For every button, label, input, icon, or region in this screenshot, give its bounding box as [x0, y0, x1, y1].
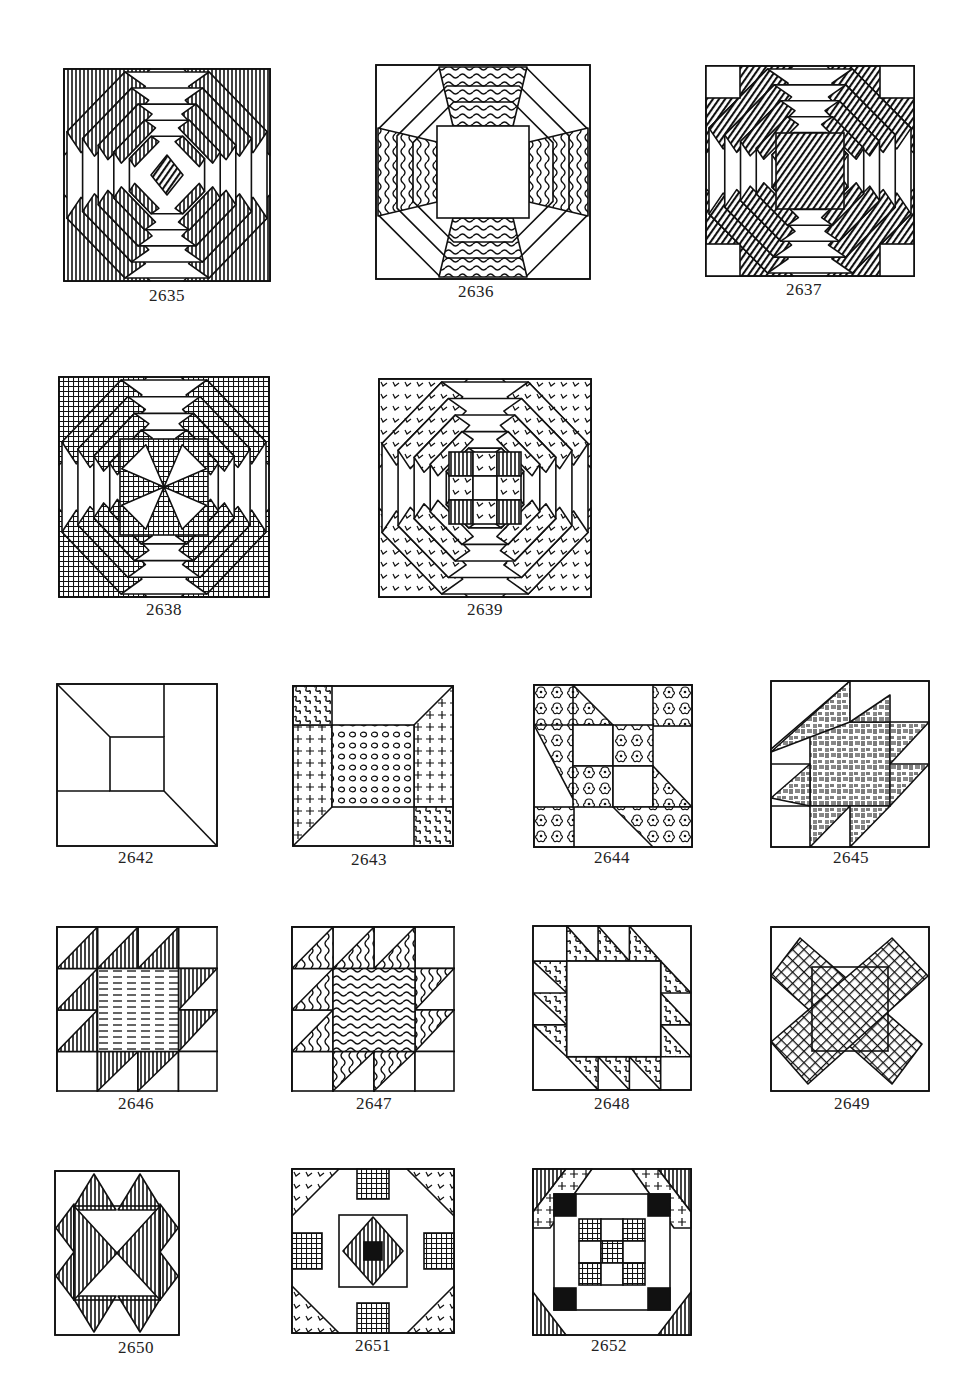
corner-square	[880, 66, 914, 98]
block-caption-2652: 2652	[569, 1336, 649, 1356]
checker-square	[613, 766, 653, 807]
ninepatch-square	[601, 1263, 623, 1285]
quilt-block-2638-drawing	[58, 376, 270, 598]
quilt-block-2642	[56, 683, 218, 847]
corner-square	[293, 686, 332, 725]
corner-block	[554, 1288, 576, 1310]
block-caption-2649: 2649	[812, 1094, 892, 1114]
quilt-block-2635-drawing	[63, 68, 271, 282]
center-square	[98, 969, 179, 1052]
checker-square	[357, 1303, 389, 1333]
block-caption-2643: 2643	[329, 850, 409, 870]
checker-square	[424, 1233, 454, 1269]
block-caption-2637: 2637	[764, 280, 844, 300]
quilt-block-2651-drawing	[291, 1168, 455, 1334]
ninepatch-square	[473, 476, 497, 500]
wavy-band-right	[529, 128, 588, 216]
block-caption-2651: 2651	[333, 1336, 413, 1356]
center-square	[333, 969, 415, 1052]
quilt-block-2648	[532, 925, 692, 1091]
quilt-block-2637-drawing	[705, 65, 915, 277]
checker-square	[573, 725, 613, 766]
block-caption-2650: 2650	[96, 1338, 176, 1358]
ninepatch-square	[601, 1241, 623, 1263]
quilt-block-2643	[292, 685, 454, 847]
quilt-block-2645	[770, 680, 930, 848]
corner-square	[534, 685, 574, 726]
ninepatch-square	[623, 1263, 645, 1285]
center-square	[332, 725, 414, 807]
ninepatch-square	[449, 500, 473, 524]
checker-square	[613, 725, 653, 766]
block-caption-2636: 2636	[436, 282, 516, 302]
checker-square	[292, 1233, 322, 1269]
block-caption-2647: 2647	[334, 1094, 414, 1114]
quilt-block-2650-drawing	[54, 1170, 180, 1336]
grid-square	[415, 1052, 455, 1093]
wavy-band-top	[439, 67, 527, 126]
center-square	[776, 133, 844, 209]
quilt-block-2646	[56, 926, 218, 1092]
grid-square	[57, 1052, 98, 1093]
quilt-block-2635	[63, 68, 271, 282]
quilt-block-2645-drawing	[770, 680, 930, 848]
ninepatch-square	[497, 500, 521, 524]
quilt-block-2649-drawing	[770, 926, 930, 1092]
center-dot	[364, 1242, 382, 1260]
ninepatch-square	[497, 476, 521, 500]
quilt-block-2644-drawing	[533, 684, 693, 848]
grid-square	[179, 1052, 219, 1093]
quilt-block-2646-drawing	[56, 926, 218, 1092]
corner-square	[414, 807, 453, 846]
ninepatch-square	[623, 1219, 645, 1241]
corner-block	[648, 1194, 670, 1216]
block-caption-2645: 2645	[811, 848, 891, 868]
ninepatch-square	[473, 500, 497, 524]
grid-square	[415, 927, 455, 969]
block-caption-2648: 2648	[572, 1094, 652, 1114]
ninepatch-square	[449, 452, 473, 476]
ninepatch-square	[601, 1219, 623, 1241]
quilt-block-2638	[58, 376, 270, 598]
block-caption-2644: 2644	[572, 848, 652, 868]
quilt-block-2639	[378, 378, 592, 598]
quilt-block-2649	[770, 926, 930, 1092]
corner-square	[706, 66, 740, 98]
corner-square	[653, 685, 692, 726]
ninepatch-square	[497, 452, 521, 476]
block-caption-2639: 2639	[445, 600, 525, 620]
ninepatch-square	[623, 1241, 645, 1263]
ninepatch-square	[579, 1263, 601, 1285]
grid-square	[179, 927, 219, 969]
checker-square	[357, 1169, 389, 1199]
block-caption-2635: 2635	[127, 286, 207, 306]
corner-block	[648, 1288, 670, 1310]
quilt-block-2647-drawing	[291, 926, 455, 1092]
quilt-block-2644	[533, 684, 693, 848]
center-square	[567, 961, 661, 1057]
corner-square	[534, 807, 574, 847]
ninepatch-square	[473, 452, 497, 476]
ninepatch-square	[579, 1219, 601, 1241]
quilt-block-2650	[54, 1170, 180, 1336]
quilt-block-2651	[291, 1168, 455, 1334]
quilt-block-2652-drawing	[532, 1168, 692, 1336]
checker-square	[573, 766, 613, 807]
corner-block	[554, 1194, 576, 1216]
quilt-block-2652	[532, 1168, 692, 1336]
center-square	[110, 737, 164, 791]
quilt-block-2647	[291, 926, 455, 1092]
quilt-block-2639-drawing	[378, 378, 592, 598]
quilt-block-2642-drawing	[56, 683, 218, 847]
quilt-block-2637	[705, 65, 915, 277]
block-caption-2642: 2642	[96, 848, 176, 868]
quilt-block-2636-drawing	[375, 64, 591, 280]
block-caption-2646: 2646	[96, 1094, 176, 1114]
quilt-block-2636	[375, 64, 591, 280]
quilt-block-2648-drawing	[532, 925, 692, 1091]
center-square	[437, 126, 529, 218]
quilt-block-2643-drawing	[292, 685, 454, 847]
wavy-band-left	[378, 128, 437, 216]
ninepatch-square	[579, 1241, 601, 1263]
wavy-band-bottom	[439, 218, 527, 277]
